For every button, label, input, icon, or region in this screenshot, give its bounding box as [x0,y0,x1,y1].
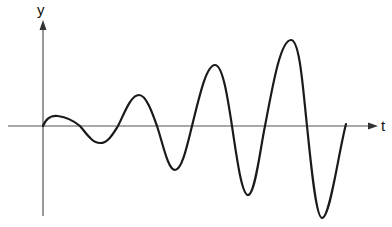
diagram-canvas [0,0,392,227]
y-axis-arrow-icon [40,20,47,30]
t-axis-arrow-icon [368,123,378,130]
y-axis-label: y [37,2,45,17]
t-axis-label: t [381,118,385,133]
oscillation-curve [43,40,346,218]
